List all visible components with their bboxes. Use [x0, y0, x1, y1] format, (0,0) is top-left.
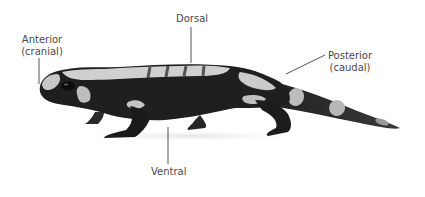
posterior-label-term: Posterior — [326, 50, 374, 62]
eye-highlight — [64, 84, 68, 86]
anterior-label: Anterior (cranial) — [21, 34, 63, 58]
dorsal-label: Dorsal — [176, 13, 208, 25]
salamander-illustration — [0, 0, 425, 197]
anterior-label-synonym: (cranial) — [21, 46, 63, 58]
anterior-label-term: Anterior — [21, 34, 63, 46]
posterior-leader-line — [286, 55, 325, 74]
hind-leg-far — [188, 115, 207, 130]
front-leg-far — [85, 112, 104, 124]
anatomy-diagram: Anterior (cranial) Dorsal Posterior (cau… — [0, 0, 425, 197]
posterior-label-synonym: (caudal) — [326, 62, 374, 74]
eye-icon — [61, 82, 75, 91]
posterior-label: Posterior (caudal) — [326, 50, 374, 74]
ventral-label: Ventral — [151, 166, 187, 178]
